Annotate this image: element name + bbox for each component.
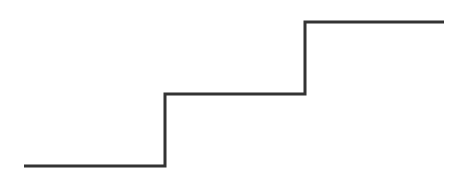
step-diagram-svg xyxy=(0,0,465,183)
step-diagram xyxy=(0,0,465,183)
step-line xyxy=(24,22,444,166)
